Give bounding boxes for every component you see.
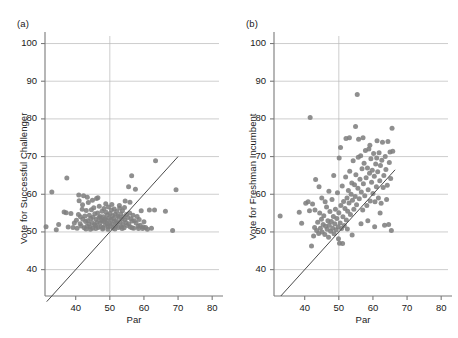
- scatter-point: [340, 183, 345, 188]
- scatter-point: [330, 197, 335, 202]
- scatter-point: [384, 197, 389, 202]
- scatter-point: [331, 173, 336, 178]
- scatter-point: [364, 203, 369, 208]
- scatter-point: [133, 187, 138, 192]
- scatter-point: [360, 166, 365, 171]
- panel-a: (a) Vote for Successful Challenger Par 4…: [0, 0, 229, 338]
- scatter-point: [390, 149, 395, 154]
- scatter-point: [326, 235, 331, 240]
- scatter-point: [385, 139, 390, 144]
- figure-two-panel-scatter: (a) Vote for Successful Challenger Par 4…: [0, 0, 458, 338]
- scatter-point: [351, 207, 356, 212]
- scatter-point: [170, 228, 175, 233]
- y-tick-label: 40: [255, 263, 266, 274]
- scatter-point: [77, 198, 82, 203]
- scatter-point: [139, 208, 144, 213]
- scatter-point: [336, 210, 341, 215]
- scatter-point: [369, 180, 374, 185]
- scatter-point: [120, 226, 125, 231]
- scatter-point: [97, 204, 102, 209]
- x-tick-label: 60: [368, 302, 379, 313]
- panel-b: (b) Vote for Freshman Incumbent Par 4050…: [229, 0, 458, 338]
- scatter-point: [387, 160, 392, 165]
- scatter-point: [377, 178, 382, 183]
- scatter-point: [356, 155, 361, 160]
- scatter-point: [88, 227, 93, 232]
- scatter-point: [354, 202, 359, 207]
- panel-b-plot-area: 4050607080901004050607080: [229, 0, 458, 338]
- scatter-point: [299, 221, 304, 226]
- scatter-point: [90, 198, 95, 203]
- scatter-point: [338, 145, 343, 150]
- scatter-point: [385, 183, 390, 188]
- scatter-point: [64, 176, 69, 181]
- scatter-point: [95, 195, 100, 200]
- scatter-point: [347, 135, 352, 140]
- scatter-point: [359, 190, 364, 195]
- scatter-point: [64, 210, 69, 215]
- scatter-point: [141, 225, 146, 230]
- scatter-point: [334, 216, 339, 221]
- scatter-point: [105, 227, 110, 232]
- scatter-point: [103, 201, 108, 206]
- scatter-point: [152, 208, 157, 213]
- y-tick-label: 100: [250, 37, 266, 48]
- scatter-point: [137, 217, 142, 222]
- scatter-point: [375, 138, 380, 143]
- scatter-point: [66, 225, 71, 230]
- scatter-point: [83, 226, 88, 231]
- scatter-point: [381, 173, 386, 178]
- scatter-point: [49, 190, 54, 195]
- x-tick-label: 80: [436, 302, 447, 313]
- scatter-point: [68, 211, 73, 216]
- scatter-point: [377, 150, 382, 155]
- scatter-point: [313, 177, 318, 182]
- y-tick-label: 50: [255, 225, 266, 236]
- scatter-points: [44, 158, 179, 233]
- scatter-point: [319, 196, 324, 201]
- x-tick-label: 70: [402, 302, 413, 313]
- y-tick-label: 60: [26, 188, 37, 199]
- scatter-point: [367, 143, 372, 148]
- scatter-point: [126, 184, 131, 189]
- scatter-point: [373, 162, 378, 167]
- scatter-point: [78, 214, 83, 219]
- scatter-point: [356, 137, 361, 142]
- scatter-point: [117, 206, 122, 211]
- scatter-point: [122, 205, 127, 210]
- scatter-point: [311, 234, 316, 239]
- x-tick-label: 50: [334, 302, 345, 313]
- scatter-point: [345, 196, 350, 201]
- scatter-point: [56, 222, 61, 227]
- scatter-point: [317, 184, 322, 189]
- scatter-point: [141, 219, 146, 224]
- scatter-point: [308, 115, 313, 120]
- scatter-point: [355, 186, 360, 191]
- scatter-point: [153, 158, 158, 163]
- y-tick-label: 50: [26, 225, 37, 236]
- scatter-point: [375, 169, 380, 174]
- scatter-point: [44, 224, 49, 229]
- scatter-point: [136, 226, 141, 231]
- scatter-points: [278, 92, 396, 248]
- scatter-point: [376, 196, 381, 201]
- y-tick-label: 70: [26, 150, 37, 161]
- scatter-point: [84, 208, 89, 213]
- scatter-point: [368, 156, 373, 161]
- y-tick-label: 80: [26, 112, 37, 123]
- y-tick-label: 60: [255, 188, 266, 199]
- scatter-point: [297, 210, 302, 215]
- scatter-point: [76, 193, 81, 198]
- scatter-point: [338, 220, 343, 225]
- scatter-point: [345, 226, 350, 231]
- scatter-point: [378, 211, 383, 216]
- scatter-point: [149, 226, 154, 231]
- y-tick-label: 100: [21, 37, 37, 48]
- scatter-point: [82, 214, 87, 219]
- scatter-point: [374, 156, 379, 161]
- scatter-point: [353, 172, 358, 177]
- scatter-point: [85, 195, 90, 200]
- scatter-point: [379, 158, 384, 163]
- scatter-point: [386, 222, 391, 227]
- scatter-point: [365, 218, 370, 223]
